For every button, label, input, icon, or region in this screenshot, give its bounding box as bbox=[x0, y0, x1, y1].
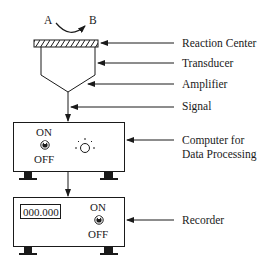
reaction-center-label: Reaction Center bbox=[182, 37, 257, 49]
recorder-switch-off-label: OFF bbox=[88, 228, 108, 240]
transducer-label: Transducer bbox=[182, 57, 233, 69]
biosensor-diagram: A B Reaction Center Transducer Amplifier… bbox=[0, 0, 273, 263]
computer-label-line1: Computer for bbox=[182, 134, 244, 147]
recorder-display-value: 000.000 bbox=[23, 206, 59, 218]
curved-arrow-icon bbox=[56, 23, 85, 32]
computer-switch-on-label: ON bbox=[36, 126, 52, 138]
computer-label-line2: Data Processing bbox=[182, 148, 257, 161]
recorder-label: Recorder bbox=[182, 214, 224, 226]
reaction-center-bar bbox=[34, 40, 98, 47]
reactant-label: A bbox=[44, 14, 53, 26]
recorder-unit: 000.000 ON OFF bbox=[14, 198, 125, 256]
computer-box bbox=[14, 123, 125, 172]
product-label: B bbox=[89, 14, 97, 26]
computer-switch-off-label: OFF bbox=[34, 153, 54, 165]
signal-label: Signal bbox=[182, 100, 211, 113]
computer-unit: ON OFF bbox=[14, 123, 125, 181]
recorder-switch-on-label: ON bbox=[90, 201, 106, 213]
transducer-amplifier-body bbox=[41, 47, 95, 92]
reaction-arrow-group: A B bbox=[44, 14, 97, 32]
recorder-feet bbox=[19, 247, 118, 255]
amplifier-label: Amplifier bbox=[182, 78, 228, 91]
